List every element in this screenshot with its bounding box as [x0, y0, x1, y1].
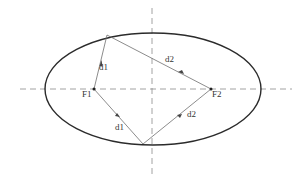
- segment-label-d2-top: d2: [165, 54, 174, 64]
- ellipse-diagram: F1 F2 d1 d2 d1 d2: [0, 0, 305, 177]
- segment-label-d1-bottom: d1: [115, 122, 124, 132]
- focus-f2-label: F2: [212, 89, 222, 99]
- segment-label-d1-top: d1: [99, 62, 108, 72]
- segment-d2-bottom: [143, 89, 211, 144]
- segment-label-d2-bottom: d2: [187, 109, 196, 119]
- segment-d2-top: [107, 35, 211, 89]
- focus-f1-label: F1: [82, 89, 92, 99]
- focus-f1-point: [93, 88, 96, 91]
